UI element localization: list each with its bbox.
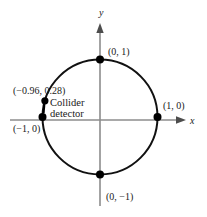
detector-annotation-line2: detector	[50, 109, 84, 120]
point-bottom	[96, 171, 104, 179]
x-axis-arrowhead	[176, 116, 186, 123]
point-label-left: (−1, 0)	[13, 124, 40, 134]
point-label-top: (0, 1)	[108, 47, 130, 57]
point-right	[154, 113, 162, 121]
point-label-right: (1, 0)	[163, 101, 185, 111]
unit-circle-figure: (0, 1) (1, 0) (0, −1) (−1, 0) (−0.96, 0.…	[0, 0, 207, 217]
point-left	[39, 113, 47, 121]
detector-annotation-line1: Collider	[50, 98, 84, 109]
x-axis-label: x	[190, 116, 194, 126]
point-label-bottom: (0, −1)	[106, 192, 133, 202]
point-top	[96, 56, 104, 64]
detector-coordinate-label: (−0.96, 0.28)	[13, 86, 65, 96]
y-axis-arrowhead	[96, 23, 103, 33]
point-detector	[41, 97, 48, 104]
y-axis-label: y	[99, 8, 103, 18]
